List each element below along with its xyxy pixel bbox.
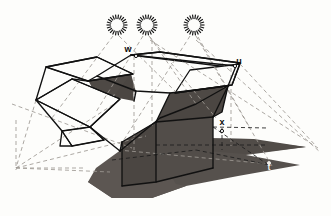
light-core: [189, 20, 200, 31]
figure-canvas: wuxt: [0, 0, 331, 216]
light-ray-spoke: [118, 15, 119, 19]
light-ray-spoke: [146, 31, 147, 35]
perspective-shadow-figure: wuxt Line drawing of an open cardboard b…: [0, 0, 331, 216]
light-ray-spoke: [116, 31, 117, 35]
light-ray-spoke: [118, 31, 119, 35]
light-core: [142, 20, 153, 31]
vertex-label-w: w: [123, 44, 132, 54]
vertex-label-u: u: [236, 56, 242, 66]
light-ray-spoke: [116, 15, 117, 19]
point-marker-x: [220, 129, 223, 132]
light-ray-spoke: [195, 31, 196, 35]
light-core: [112, 20, 123, 31]
light-ray-spoke: [148, 15, 149, 19]
light-ray-spoke: [195, 15, 196, 19]
light-ray-spoke: [193, 31, 194, 35]
light-ray-spoke: [193, 15, 194, 19]
light-ray-spoke: [148, 31, 149, 35]
vertex-label-x: x: [219, 117, 224, 127]
light-ray-spoke: [146, 15, 147, 19]
point-marker-w: [134, 54, 137, 57]
vertex-label-t: t: [268, 162, 271, 172]
